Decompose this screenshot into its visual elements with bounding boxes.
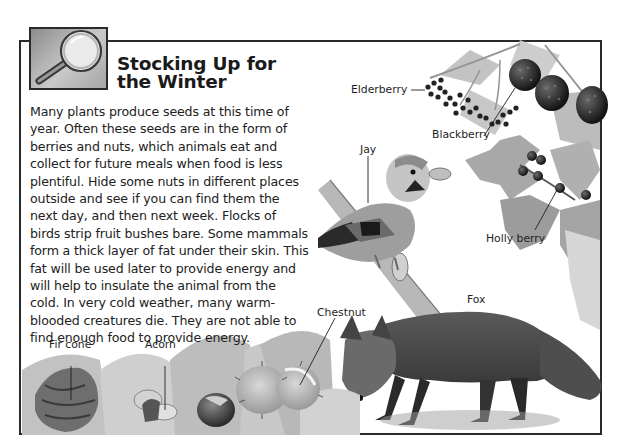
label-jay: Jay (360, 143, 376, 156)
label-acorn: Acorn (145, 338, 176, 351)
label-elderberry: Elderberry (351, 83, 407, 96)
body-line: cold. In very cold weather, many warm- (30, 294, 310, 311)
label-holly-berry: Holly berry (486, 232, 545, 245)
body-line: form a thick layer of fat under their sk… (30, 242, 310, 259)
page-title: Stocking Up for the Winter (117, 55, 276, 91)
body-line: blooded creatures die. They are not able… (30, 312, 310, 329)
body-line: year. Often these seeds are in the form … (30, 120, 310, 137)
title-line: the Winter (117, 73, 276, 91)
body-line: Many plants produce seeds at this time o… (30, 103, 310, 120)
magnifying-glass-icon (31, 29, 106, 88)
body-paragraph: Many plants produce seeds at this time o… (30, 103, 310, 347)
body-line: fat will be used later to provide energy… (30, 260, 310, 277)
fox (340, 312, 601, 430)
label-fir-cone: Fir cone (49, 338, 91, 351)
label-blackberry: Blackberry (432, 128, 490, 141)
label-fox: Fox (467, 293, 486, 306)
body-line: plentiful. Hide some nuts in different p… (30, 173, 310, 190)
label-chestnut: Chestnut (317, 306, 366, 319)
body-line: berries and nuts, which animals eat and (30, 138, 310, 155)
body-line: outside and see if you can find them the (30, 190, 310, 207)
body-line: will help to insulate the animal from th… (30, 277, 310, 294)
magnifying-glass-icon-box (29, 27, 108, 90)
body-line: next day, and then next week. Flocks of (30, 207, 310, 224)
body-line: collect for future meals when food is le… (30, 155, 310, 172)
body-line: birds strip fruit bushes bare. Some mamm… (30, 225, 310, 242)
